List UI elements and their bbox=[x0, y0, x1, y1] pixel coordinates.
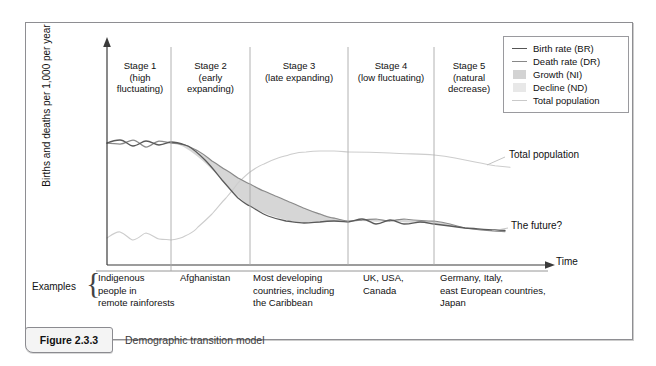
stage-1-name: Stage 1 bbox=[110, 60, 170, 72]
death-rate-line-icon bbox=[511, 56, 528, 67]
stage-3-descriptor: (late expanding) bbox=[251, 72, 347, 84]
stage-1-descriptor: (high fluctuating) bbox=[110, 72, 170, 95]
stage-header-4: Stage 4 (low fluctuating) bbox=[349, 60, 433, 83]
the-future-annotation: The future? bbox=[511, 220, 562, 231]
birth-rate-line-icon bbox=[511, 43, 528, 54]
total-population-annotation: Total population bbox=[509, 149, 579, 160]
legend-label-death-rate: Death rate (DR) bbox=[533, 56, 600, 67]
legend-label-total-population: Total population bbox=[533, 95, 600, 106]
stage-2-descriptor: (early expanding) bbox=[173, 72, 248, 95]
stage-2-name: Stage 2 bbox=[173, 60, 248, 72]
stage-4-descriptor: (low fluctuating) bbox=[349, 72, 433, 84]
legend-label-birth-rate: Birth rate (BR) bbox=[533, 43, 594, 54]
decline-swatch-icon bbox=[511, 82, 528, 93]
legend-label-growth: Growth (NI) bbox=[533, 69, 582, 80]
legend-item-death-rate: Death rate (DR) bbox=[511, 55, 622, 68]
examples-stage-4: UK, USA, Canada bbox=[363, 272, 433, 297]
stage-header-1: Stage 1 (high fluctuating) bbox=[110, 60, 170, 95]
stage-5-descriptor: (natural decrease) bbox=[436, 72, 502, 95]
legend-label-decline: Decline (ND) bbox=[533, 82, 587, 93]
stage-5-name: Stage 5 bbox=[436, 60, 502, 72]
stage-4-name: Stage 4 bbox=[349, 60, 433, 72]
figure-caption-text: Demographic transition model bbox=[113, 327, 264, 353]
growth-swatch-icon bbox=[511, 69, 528, 80]
total-population-line-icon bbox=[511, 95, 528, 106]
stage-header-5: Stage 5 (natural decrease) bbox=[436, 60, 502, 95]
stage-header-2: Stage 2 (early expanding) bbox=[173, 60, 248, 95]
figure-root: Births and deaths per 1,000 per year Tim… bbox=[0, 0, 656, 366]
x-axis-label: Time bbox=[556, 256, 578, 267]
figure-caption: Figure 2.3.3 Demographic transition mode… bbox=[25, 327, 633, 353]
legend-item-birth-rate: Birth rate (BR) bbox=[511, 42, 622, 55]
figure-number: Figure 2.3.3 bbox=[25, 327, 113, 353]
legend-item-total-population: Total population bbox=[511, 94, 622, 107]
examples-row-label: Examples bbox=[32, 281, 76, 292]
legend-item-decline: Decline (ND) bbox=[511, 81, 622, 94]
y-axis-label: Births and deaths per 1,000 per year bbox=[41, 16, 52, 196]
stage-header-3: Stage 3 (late expanding) bbox=[251, 60, 347, 83]
chart-legend: Birth rate (BR) Death rate (DR) Growth (… bbox=[503, 36, 629, 113]
examples-stage-2: Afghanistan bbox=[180, 272, 250, 285]
examples-stage-5: Germany, Italy, east European countries,… bbox=[440, 272, 570, 310]
legend-item-growth: Growth (NI) bbox=[511, 68, 622, 81]
stage-3-name: Stage 3 bbox=[251, 60, 347, 72]
examples-stage-1: Indigenous people in remote rainforests bbox=[98, 272, 176, 310]
examples-stage-3: Most developing countries, including the… bbox=[253, 272, 353, 310]
